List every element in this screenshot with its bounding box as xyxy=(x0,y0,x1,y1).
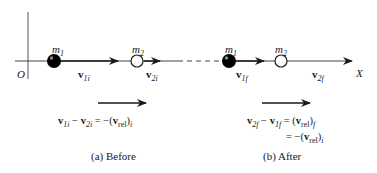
caption-after: (b) After xyxy=(263,151,301,162)
mass1-highlight xyxy=(50,56,54,60)
x-axis-label: X xyxy=(356,68,363,79)
caption-before: (a) Before xyxy=(91,151,136,162)
collision-diagram-canvas xyxy=(0,0,377,173)
v1i-label: v1i xyxy=(78,69,90,80)
before-relative-velocity-equation: v1i − v2i = −(vrel)i xyxy=(58,116,132,127)
mass2-after-label: m2 xyxy=(275,44,287,55)
after-relative-velocity-equation-line1: v2f − v1f = (vrel)f xyxy=(247,116,315,127)
origin-label: O xyxy=(17,69,25,80)
mass1-after-label: m1 xyxy=(225,44,237,55)
v2f-label: v2f xyxy=(312,69,324,80)
mass1-after-highlight xyxy=(225,56,229,60)
v1f-label: v1f xyxy=(236,69,248,80)
v2i-label: v2i xyxy=(146,69,158,80)
mass1-before-label: m1 xyxy=(52,44,64,55)
mass2-before-label: m2 xyxy=(132,44,144,55)
after-relative-velocity-equation-line2: = −(vrel)i xyxy=(286,132,323,143)
mass1-before xyxy=(47,54,61,68)
